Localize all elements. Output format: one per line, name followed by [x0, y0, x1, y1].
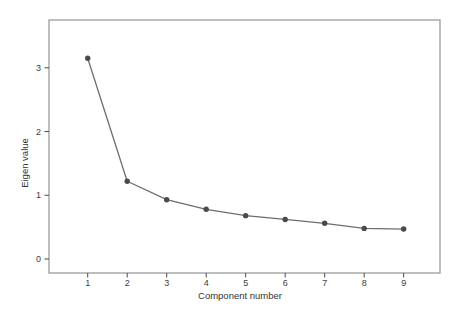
data-point	[125, 179, 130, 184]
data-point	[203, 207, 208, 212]
y-tick-label: 3	[36, 63, 41, 73]
x-tick-label: 9	[401, 278, 406, 288]
data-point	[361, 226, 366, 231]
scree-plot-figure: 0123123456789 Eigen value Component numb…	[0, 0, 465, 322]
x-tick-label: 3	[164, 278, 169, 288]
data-point	[322, 221, 327, 226]
data-point	[282, 217, 287, 222]
x-axis-title: Component number	[198, 290, 282, 301]
x-tick-label: 2	[125, 278, 130, 288]
x-tick-label: 8	[362, 278, 367, 288]
scree-plot-canvas: 0123123456789	[0, 0, 465, 322]
data-point	[85, 56, 90, 61]
data-point	[164, 197, 169, 202]
y-tick-label: 1	[36, 190, 41, 200]
data-point	[401, 226, 406, 231]
data-point	[243, 213, 248, 218]
scree-line	[88, 58, 404, 229]
x-tick-label: 1	[85, 278, 90, 288]
plot-border	[49, 20, 440, 273]
y-tick-label: 2	[36, 127, 41, 137]
x-tick-label: 4	[204, 278, 209, 288]
y-tick-label: 0	[36, 254, 41, 264]
x-tick-label: 7	[322, 278, 327, 288]
y-axis-title: Eigen value	[19, 138, 30, 188]
x-tick-label: 6	[283, 278, 288, 288]
x-tick-label: 5	[243, 278, 248, 288]
